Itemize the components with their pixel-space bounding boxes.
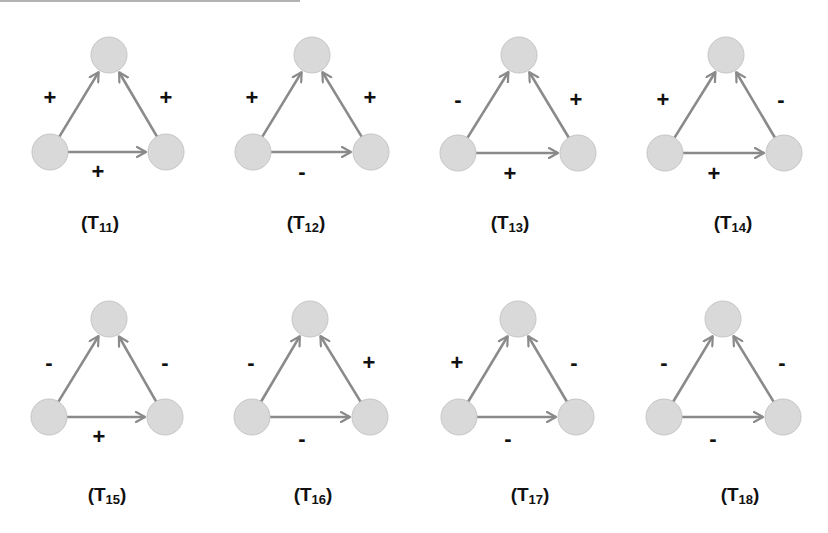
triad-t17: +--(T17) [441,301,594,507]
edge-left-arrow [261,72,301,138]
edge-left-arrow [260,336,300,403]
sign-left-label: + [246,85,259,110]
node-top [91,37,127,73]
node-bottom-left [32,134,68,170]
edge-left-arrow [672,336,712,403]
caption-subscript: 13 [509,220,523,235]
node-top [705,301,741,337]
caption-suffix: ) [319,212,325,233]
triad-t16: -+-(T16) [234,301,388,507]
caption-subscript: 11 [99,220,113,235]
edge-right-arrow [119,72,158,138]
sign-right-label: - [778,350,785,375]
caption-subscript: 16 [312,492,326,507]
node-bottom-left [440,135,476,171]
caption-prefix: (T [287,212,305,233]
caption-subscript: 14 [732,220,747,235]
sign-bottom-label: - [504,426,511,451]
node-bottom-right [352,399,388,435]
sign-bottom-label: + [708,161,721,186]
caption-suffix: ) [746,212,752,233]
triad-caption: (T18) [721,484,760,507]
caption-subscript: 15 [106,492,120,507]
sign-bottom-label: - [298,159,305,184]
triad-caption: (T12) [287,212,326,235]
node-top [501,37,537,73]
node-bottom-left [441,399,477,435]
caption-prefix: (T [491,212,509,233]
node-bottom-right [558,399,594,435]
triad-caption: (T13) [491,212,530,235]
edge-right-arrow [529,72,569,139]
edge-left-arrow [466,72,508,139]
edge-left-arrow [57,336,98,403]
triad-t12: ++-(T12) [235,37,389,235]
edge-right-arrow [528,336,568,403]
node-bottom-left [234,399,270,435]
triad-t13: -++(T13) [440,37,596,235]
sign-right-label: - [570,350,577,375]
node-top [294,37,330,73]
caption-prefix: (T [721,484,739,505]
caption-suffix: ) [113,212,119,233]
caption-prefix: (T [294,484,312,505]
sign-bottom-label: - [709,426,716,451]
edge-right-arrow [119,336,157,403]
sign-right-label: - [777,87,784,112]
triad-t11: +++(T11) [32,37,184,235]
caption-suffix: ) [523,212,529,233]
sign-bottom-label: + [504,161,517,186]
triad-t14: +-+(T14) [647,37,802,235]
node-bottom-left [647,135,683,171]
sign-right-label: + [570,87,583,112]
edge-right-arrow [733,336,774,403]
node-bottom-right [560,135,596,171]
node-bottom-left [646,399,682,435]
edge-right-arrow [320,336,361,403]
node-bottom-right [148,134,184,170]
triad-caption: (T16) [294,484,333,507]
node-top [292,301,328,337]
triad-caption: (T11) [81,212,119,235]
triad-diagram-canvas: +++(T11)++-(T12)-++(T13)+-+(T14)--+(T15)… [0,0,828,533]
sign-left-label: + [657,87,670,112]
sign-right-label: + [363,350,376,375]
caption-prefix: (T [714,212,732,233]
sign-left-label: + [44,85,57,110]
triads-group: +++(T11)++-(T12)-++(T13)+-+(T14)--+(T15)… [31,37,802,507]
caption-suffix: ) [326,484,332,505]
triad-caption: (T15) [88,484,127,507]
sign-right-label: - [161,350,168,375]
node-bottom-right [147,399,183,435]
sign-left-label: - [45,350,52,375]
node-bottom-right [353,134,389,170]
node-bottom-left [31,399,67,435]
caption-subscript: 17 [529,492,543,507]
caption-subscript: 18 [739,492,753,507]
edge-right-arrow [736,72,776,139]
node-top [708,37,744,73]
triad-caption: (T17) [511,484,550,507]
triad-t15: --+(T15) [31,301,183,507]
edge-left-arrow [467,336,507,403]
edge-right-arrow [322,72,362,138]
triad-caption: (T14) [714,212,753,235]
node-top [91,301,127,337]
caption-prefix: (T [81,212,99,233]
caption-suffix: ) [543,484,549,505]
sign-bottom-label: + [92,159,105,184]
sign-right-label: + [160,85,173,110]
sign-left-label: - [247,350,254,375]
caption-suffix: ) [753,484,759,505]
sign-bottom-label: + [93,424,106,449]
caption-prefix: (T [511,484,529,505]
edge-left-arrow [58,72,98,138]
sign-left-label: + [451,350,464,375]
node-top [500,301,536,337]
sign-right-label: + [364,85,377,110]
edge-left-arrow [673,72,715,139]
node-bottom-right [766,135,802,171]
caption-subscript: 12 [305,220,319,235]
sign-bottom-label: - [298,426,305,451]
node-bottom-left [235,134,271,170]
